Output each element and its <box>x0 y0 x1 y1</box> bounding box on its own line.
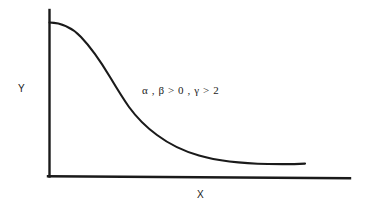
x-axis-label: X <box>197 190 204 200</box>
plot-canvas <box>0 0 367 206</box>
y-axis-label: Y <box>18 84 25 94</box>
figure-container: Y X α , β > 0 , γ > 2 <box>0 0 367 206</box>
parameter-constraint-annotation: α , β > 0 , γ > 2 <box>142 85 219 96</box>
x-axis-line <box>48 176 350 178</box>
